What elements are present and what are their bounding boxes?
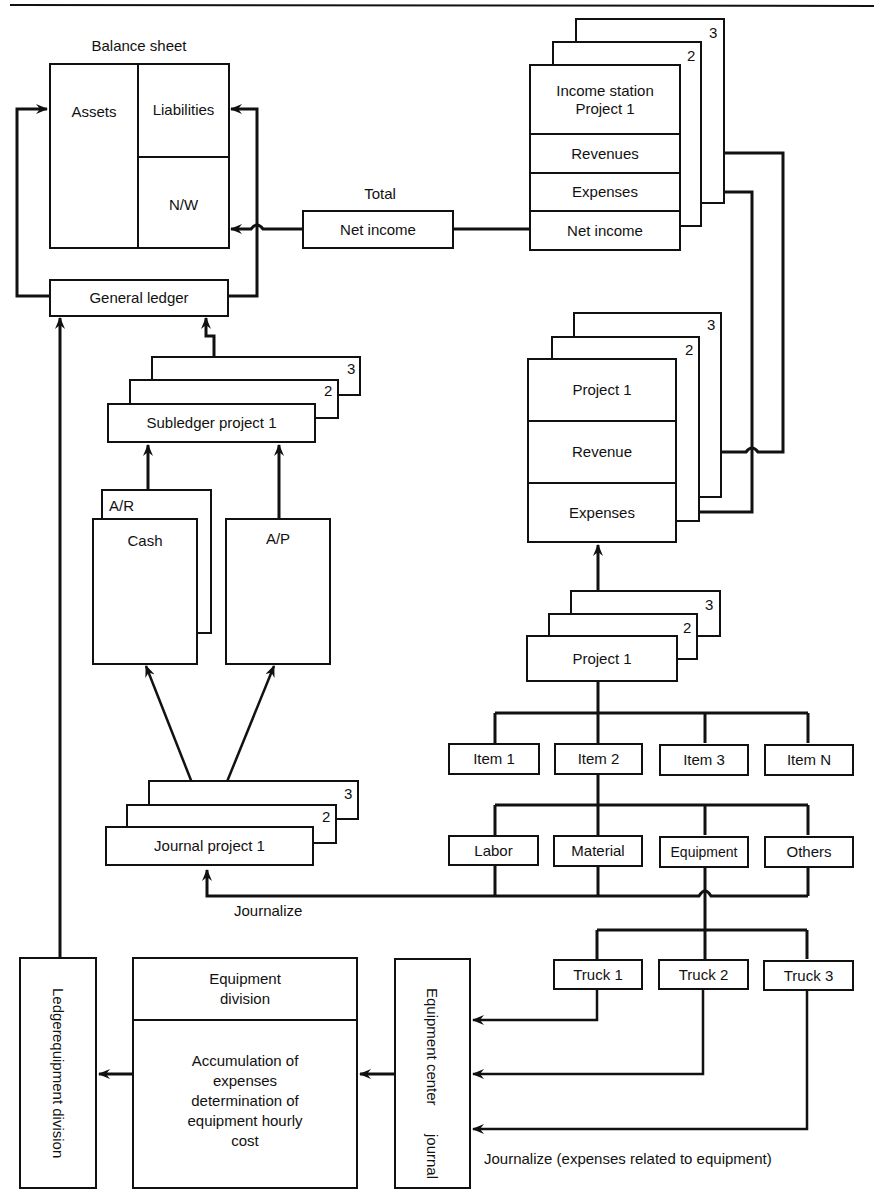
truck-label: Truck 2 (679, 966, 728, 984)
income-statement-expenses-cell: Expenses (531, 174, 679, 212)
equipment-division-body-line: equipment hourly (187, 1111, 302, 1131)
project-statement-sheet-3-number: 3 (707, 316, 715, 333)
equipment-division-body-line: expenses (213, 1071, 277, 1091)
balance-sheet-net-worth-cell: N/W (139, 158, 228, 247)
general-ledger-label: General ledger (89, 289, 188, 307)
item-label: Item 1 (473, 750, 515, 768)
project-cost-box: Project 1 (526, 635, 678, 682)
category-box-material: Material (553, 835, 643, 867)
balance-sheet-title: Balance sheet (84, 37, 194, 55)
accounts-payable-sheet: A/P (225, 518, 331, 665)
project-statement-expenses-label: Expenses (569, 504, 635, 522)
assets-label: Assets (71, 103, 116, 121)
income-statement-revenues-label: Revenues (571, 145, 639, 163)
income-statement-sheet-1: Income station Project 1 Revenues Expens… (529, 64, 681, 251)
equipment-center-journal-line1: Equipment center (423, 960, 442, 1106)
accounts-payable-label: A/P (227, 530, 329, 548)
truck-label: Truck 3 (784, 967, 833, 985)
project-cost-sheet-3-number: 3 (705, 596, 713, 613)
balance-sheet-liabilities-cell: Liabilities (139, 65, 228, 158)
project-statement-revenue-label: Revenue (572, 443, 632, 461)
journalize-equipment-label: Journalize (expenses related to equipmen… (484, 1150, 772, 1168)
item-box-2: Item 2 (554, 743, 643, 775)
subledger-sheet-2-number: 2 (324, 382, 332, 399)
liabilities-label: Liabilities (153, 101, 215, 119)
equipment-division-title-line1: Equipment (209, 969, 281, 989)
subledger-project-box: Subledger project 1 (107, 403, 316, 443)
equipment-center-journal-label: Equipment center journal (396, 960, 469, 1187)
item-label: Item 3 (683, 751, 725, 769)
project-cost-sheet-2-number: 2 (683, 619, 691, 636)
journal-sheet-3-number: 3 (344, 785, 352, 802)
truck-box-1: Truck 1 (553, 959, 643, 990)
cash-label: Cash (94, 532, 196, 550)
cash-sheet: Cash (92, 518, 198, 665)
truck-box-3: Truck 3 (763, 960, 854, 991)
income-statement-title-line2: Project 1 (575, 100, 634, 118)
net-worth-label: N/W (169, 196, 198, 214)
accounts-receivable-label: A/R (109, 497, 134, 514)
equipment-center-journal-box: Equipment center journal (394, 958, 471, 1189)
equipment-center-journal-line2: journal (423, 1106, 442, 1179)
total-net-income-label: Net income (340, 221, 416, 239)
project-statement-revenue-cell: Revenue (529, 422, 675, 484)
category-box-labor: Labor (448, 835, 539, 866)
category-box-equipment: Equipment (659, 836, 749, 868)
income-statement-sheet-3-number: 3 (709, 24, 717, 41)
general-ledger-box: General ledger (49, 279, 229, 317)
income-statement-net-income-label: Net income (567, 222, 643, 240)
item-box-3: Item 3 (659, 744, 749, 776)
category-label: Material (571, 842, 624, 860)
journal-sheet-2-number: 2 (322, 808, 330, 825)
project-statement-sheet-1: Project 1 Revenue Expenses (527, 358, 677, 543)
category-label: Labor (474, 842, 512, 860)
equipment-division-title-cell: Equipment division (134, 959, 356, 1021)
journal-project-box: Journal project 1 (105, 826, 314, 866)
equipment-division-body-line: Accumulation of (192, 1051, 299, 1071)
truck-label: Truck 1 (573, 966, 622, 984)
income-statement-title-cell: Income station Project 1 (531, 66, 679, 135)
category-label: Equipment (671, 843, 738, 861)
ledger-line2: equipment division (49, 1034, 68, 1158)
total-net-income-box: Net income (302, 210, 454, 249)
item-label: Item 2 (578, 750, 620, 768)
item-box-n: Item N (764, 744, 854, 776)
ledger-line1: Ledger (49, 988, 68, 1035)
item-box-1: Item 1 (448, 743, 540, 775)
balance-sheet-assets-cell: Assets (51, 65, 139, 247)
journalize-label: Journalize (234, 902, 302, 920)
project-cost-label: Project 1 (572, 650, 631, 668)
journal-project-label: Journal project 1 (154, 837, 265, 855)
project-statement-expenses-cell: Expenses (529, 484, 675, 541)
category-box-others: Others (764, 836, 854, 868)
project-statement-sheet-2-number: 2 (685, 341, 693, 358)
equipment-division-title-line2: division (220, 989, 270, 1009)
project-statement-title: Project 1 (572, 381, 631, 399)
truck-box-2: Truck 2 (658, 959, 749, 990)
income-statement-title-line1: Income station (556, 82, 654, 100)
income-statement-expenses-label: Expenses (572, 183, 638, 201)
equipment-division-box: Equipment division Accumulation of expen… (132, 957, 358, 1189)
income-statement-sheet-2-number: 2 (687, 47, 695, 64)
total-label: Total (340, 185, 420, 203)
project-statement-title-cell: Project 1 (529, 360, 675, 422)
balance-sheet: Assets Liabilities N/W (49, 63, 230, 249)
subledger-project-label: Subledger project 1 (146, 414, 276, 432)
ledger-equipment-division-box: Ledger equipment division (19, 957, 97, 1189)
income-statement-net-income-cell: Net income (531, 212, 679, 249)
equipment-division-body-cell: Accumulation of expenses determination o… (134, 1021, 356, 1187)
equipment-division-body-line: determination of (191, 1091, 299, 1111)
subledger-sheet-3-number: 3 (347, 360, 355, 377)
income-statement-revenues-cell: Revenues (531, 135, 679, 174)
category-label: Others (786, 843, 831, 861)
ledger-equipment-division-label: Ledger equipment division (21, 959, 95, 1187)
item-label: Item N (787, 751, 831, 769)
equipment-division-body-line: cost (231, 1131, 259, 1151)
